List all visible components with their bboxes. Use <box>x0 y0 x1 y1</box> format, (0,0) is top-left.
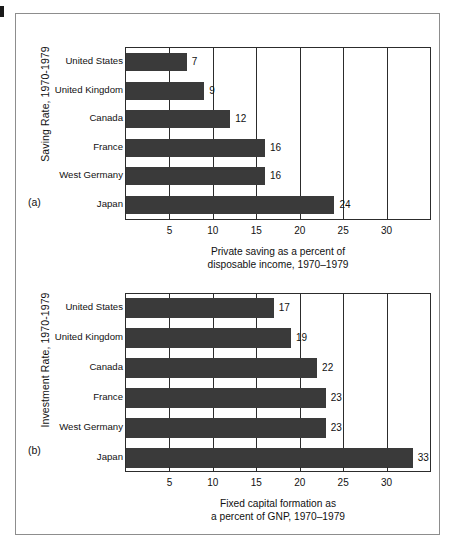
x-tick-label: 5 <box>167 225 173 236</box>
scan-edge-mark <box>0 6 4 17</box>
figure-frame: Saving Rate, 1970-1979 (a) United States… <box>15 13 440 535</box>
gridline-5 <box>169 294 170 471</box>
gridline-20 <box>300 294 301 471</box>
panel-b-caption-line2: a percent of GNP, 1970–1979 <box>125 511 431 524</box>
category-label: United Kingdom <box>55 84 123 95</box>
bar <box>126 358 317 378</box>
bar <box>126 448 413 468</box>
panel-a-caption: Private saving as a percent of disposabl… <box>125 246 431 271</box>
x-tick-label: 30 <box>381 225 392 236</box>
bar-value-label: 23 <box>331 392 342 403</box>
category-label: United States <box>65 55 123 66</box>
x-tick-5 <box>169 467 170 472</box>
bar <box>126 167 265 185</box>
bar-value-label: 17 <box>279 302 290 313</box>
bar <box>126 53 187 71</box>
x-tick-20 <box>300 467 301 472</box>
x-tick-15 <box>256 467 257 472</box>
bar <box>126 418 326 438</box>
bar-value-label: 12 <box>235 113 246 124</box>
bar-value-label: 9 <box>209 85 215 96</box>
x-tick-25 <box>343 215 344 220</box>
gridline-15 <box>256 48 257 219</box>
x-tick-30 <box>387 467 388 472</box>
gridline-5 <box>169 48 170 219</box>
category-label: France <box>93 391 123 402</box>
panel-a-label: (a) <box>28 196 41 208</box>
bar-value-label: 7 <box>192 56 198 67</box>
bar-value-label: 22 <box>322 362 333 373</box>
x-tick-25 <box>343 467 344 472</box>
panel-b-caption-line1: Fixed capital formation as <box>125 498 431 511</box>
x-tick-label: 15 <box>251 477 262 488</box>
category-label: Japan <box>97 451 123 462</box>
gridline-10 <box>213 48 214 219</box>
x-tick-label: 25 <box>338 477 349 488</box>
gridline-30 <box>387 48 388 219</box>
gridline-30 <box>387 294 388 471</box>
chart-panel-a: Saving Rate, 1970-1979 (a) United States… <box>16 24 441 274</box>
bar <box>126 139 265 157</box>
panel-b-caption: Fixed capital formation as a percent of … <box>125 498 431 523</box>
chart-panel-b: Investment Rate, 1970-1979 (b) United St… <box>16 280 441 530</box>
x-tick-5 <box>169 215 170 220</box>
x-tick-label: 20 <box>294 477 305 488</box>
bar-value-label: 16 <box>270 142 281 153</box>
bar <box>126 328 291 348</box>
x-tick-label: 20 <box>294 225 305 236</box>
x-tick-15 <box>256 215 257 220</box>
category-label: United States <box>65 301 123 312</box>
bar-value-label: 33 <box>418 452 429 463</box>
x-tick-label: 30 <box>381 477 392 488</box>
x-tick-label: 15 <box>251 225 262 236</box>
bar-value-label: 23 <box>331 422 342 433</box>
panel-b-plot-area: 171922232333 <box>125 293 431 472</box>
x-tick-label: 5 <box>167 477 173 488</box>
panel-b-x-axis: 51015202530 <box>125 472 429 494</box>
category-label: United Kingdom <box>55 331 123 342</box>
panel-b-vertical-axis-title: Investment Rate, 1970-1979 <box>39 265 51 455</box>
x-tick-10 <box>213 215 214 220</box>
panel-a-caption-line2: disposable income, 1970–1979 <box>125 259 431 272</box>
gridline-15 <box>256 294 257 471</box>
x-tick-label: 10 <box>207 477 218 488</box>
gridline-10 <box>213 294 214 471</box>
x-tick-label: 10 <box>207 225 218 236</box>
bar <box>126 196 334 214</box>
bar-value-label: 19 <box>296 332 307 343</box>
panel-a-vertical-axis-title: Saving Rate, 1970-1979 <box>39 9 51 199</box>
panel-a-plot-area: 7912161624 <box>125 47 431 220</box>
x-tick-label: 25 <box>338 225 349 236</box>
category-label: West Germany <box>59 169 123 180</box>
bar <box>126 82 204 100</box>
bar <box>126 388 326 408</box>
bar-value-label: 16 <box>270 170 281 181</box>
x-tick-10 <box>213 467 214 472</box>
bar <box>126 110 230 128</box>
gridline-25 <box>343 48 344 219</box>
x-tick-20 <box>300 215 301 220</box>
category-label: Canada <box>89 361 123 372</box>
bar-value-label: 24 <box>339 199 350 210</box>
panel-a-x-axis: 51015202530 <box>125 220 429 242</box>
gridline-20 <box>300 48 301 219</box>
category-label: West Germany <box>59 421 123 432</box>
bar <box>126 298 274 318</box>
category-label: Japan <box>97 198 123 209</box>
panel-b-label: (b) <box>28 444 41 456</box>
category-label: France <box>93 141 123 152</box>
category-label: Canada <box>89 112 123 123</box>
panel-a-caption-line1: Private saving as a percent of <box>125 246 431 259</box>
gridline-25 <box>343 294 344 471</box>
x-tick-30 <box>387 215 388 220</box>
